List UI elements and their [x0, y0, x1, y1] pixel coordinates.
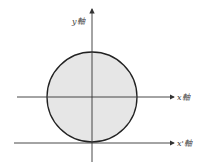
x-prime-axis-label: x'軸: [177, 139, 193, 148]
y-axis-label: y軸: [71, 17, 86, 26]
x-axis-label: x軸: [177, 93, 191, 102]
diagram-canvas: y軸 x軸 x'軸: [0, 0, 203, 165]
